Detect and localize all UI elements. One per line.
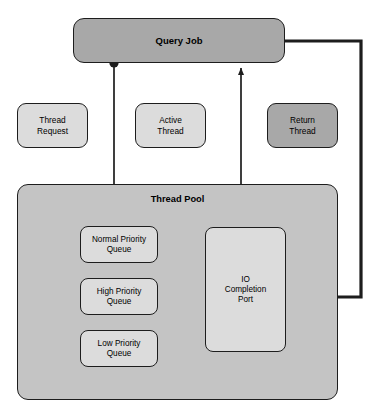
legend-active-thread[interactable]: Active Thread: [135, 103, 206, 148]
thread-pool-label: Thread Pool: [151, 194, 205, 205]
legend-return-thread[interactable]: Return Thread: [267, 103, 338, 148]
legend-thread-request-line1: Thread: [37, 115, 68, 125]
legend-active-thread-line2: Thread: [157, 126, 183, 136]
legend-return-thread-label: Return Thread: [289, 115, 315, 135]
legend-active-thread-label: Active Thread: [157, 115, 183, 135]
io-completion-port-line1: IO: [225, 275, 266, 285]
low-priority-queue-node[interactable]: Low Priority Queue: [80, 330, 158, 367]
normal-priority-queue-label: Normal Priority Queue: [92, 235, 146, 255]
legend-thread-request-label: Thread Request: [37, 115, 68, 135]
normal-priority-queue-line2: Queue: [92, 245, 146, 255]
query-job-label: Query Job: [156, 35, 203, 47]
legend-thread-request-line2: Request: [37, 126, 68, 136]
low-priority-queue-line2: Queue: [98, 349, 141, 359]
legend-return-thread-line1: Return: [289, 115, 315, 125]
io-completion-port-label: IO Completion Port: [225, 275, 266, 305]
high-priority-queue-node[interactable]: High Priority Queue: [80, 278, 158, 315]
legend-active-thread-line1: Active: [157, 115, 183, 125]
io-completion-port-line2: Completion: [225, 285, 266, 295]
low-priority-queue-line1: Low Priority: [98, 339, 141, 349]
legend-return-thread-line2: Thread: [289, 126, 315, 136]
query-job-node[interactable]: Query Job: [73, 18, 285, 63]
normal-priority-queue-line1: Normal Priority: [92, 235, 146, 245]
normal-priority-queue-node[interactable]: Normal Priority Queue: [80, 226, 158, 263]
diagram-canvas: Query Job Thread Request Active Thread R…: [0, 0, 381, 416]
high-priority-queue-label: High Priority Queue: [97, 287, 142, 307]
io-completion-port-line3: Port: [225, 295, 266, 305]
low-priority-queue-label: Low Priority Queue: [98, 339, 141, 359]
legend-thread-request[interactable]: Thread Request: [17, 103, 88, 148]
high-priority-queue-line1: High Priority: [97, 287, 142, 297]
high-priority-queue-line2: Queue: [97, 297, 142, 307]
io-completion-port-node[interactable]: IO Completion Port: [205, 227, 286, 352]
thread-pool-container[interactable]: Thread Pool: [17, 184, 338, 400]
